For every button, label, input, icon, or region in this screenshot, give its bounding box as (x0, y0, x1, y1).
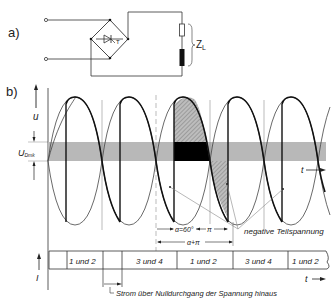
waveform-part-b: b) u UDmk (6, 84, 330, 298)
conduction-cell-label: 3 und 4 (136, 257, 163, 266)
conduction-cell-label: 1 und 2 (190, 257, 217, 266)
u-axis-arrow-icon (34, 84, 38, 90)
circuit-part-a: a) T ZL (8, 12, 206, 76)
conduction-cell-label: 1 und 2 (69, 257, 96, 266)
negative-partial-voltage-label: negative Teilspannung (244, 227, 324, 236)
alpha-plus-pi-label: α+π (187, 239, 200, 246)
thyristor-bridge-diagram: a) T ZL b) (0, 0, 334, 303)
u-axis-label: u (33, 111, 39, 122)
load-label: ZL (196, 39, 206, 51)
load-brace (188, 24, 195, 66)
part-a-label: a) (8, 25, 20, 40)
conduction-cell-label: 3 und 4 (245, 257, 272, 266)
current-axis-arrow-icon (37, 253, 41, 259)
t-axis-arrow-icon (320, 168, 326, 172)
inductor-icon (180, 49, 185, 66)
negative-partial-voltage-area (210, 161, 228, 218)
overlap-arrow-icon (117, 283, 122, 286)
thyristor-label: T (116, 39, 120, 45)
alpha-label: α=60° (175, 226, 194, 233)
conduction-block (174, 142, 205, 161)
band-label: UDmk (18, 148, 35, 158)
t-axis-label: t (301, 165, 304, 175)
current-axis-label: I (36, 273, 39, 283)
input-terminal-bottom (44, 57, 47, 60)
conduction-cell-label: 1 und 2 (292, 257, 319, 266)
pi-label: π (207, 226, 212, 233)
resistor-icon (180, 24, 185, 36)
current-overlap-annotation: Strom über Nulldurchgang der Spannung hi… (116, 289, 277, 298)
firing-lines (66, 104, 282, 222)
conduction-strip: 1 und 2 3 und 4 1 und 2 3 und 4 1 und 2 (49, 251, 329, 269)
t-axis-arrow-icon-2 (320, 277, 326, 281)
part-b-label: b) (6, 84, 18, 99)
input-terminal-top (44, 18, 47, 21)
t-axis-label-2: t (305, 274, 308, 284)
